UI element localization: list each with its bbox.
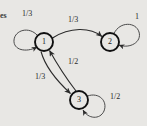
node-2-label: 2 <box>108 38 112 46</box>
self-loop-3-label: 1/2 <box>110 93 120 101</box>
self-loop-2-label: 1 <box>135 13 139 21</box>
edge-1-to-3-label: 1/3 <box>35 73 45 81</box>
edge-3-to-1-label: 1/2 <box>68 58 78 66</box>
edge-1-to-2-label: 1/3 <box>68 16 78 24</box>
edge-1-to-3-path <box>41 52 71 94</box>
edge-1-to-2-path <box>53 30 103 38</box>
node-3-label: 3 <box>77 96 81 104</box>
self-loop-1-path <box>14 30 38 50</box>
state-diagram-canvas: 1 2 3 1/3 1/3 1 1/2 1/3 1/2 es <box>0 0 147 126</box>
left-margin-text-fragment: es <box>0 12 7 20</box>
self-loop-1-label: 1/3 <box>22 10 32 18</box>
node-1-label: 1 <box>42 38 46 46</box>
